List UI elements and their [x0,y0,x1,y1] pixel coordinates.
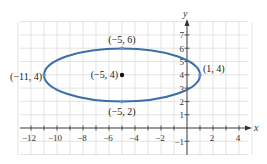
x-tick-label: −8 [77,133,87,143]
ellipse-chart: x y −12 −10 −8 −6 −4 −2 2 4 −1 1 2 3 4 5… [0,0,267,164]
y-tick-label: 7 [180,30,185,40]
y-axis-arrow-icon [185,19,190,26]
vertex-point-right [198,73,202,77]
y-axis-label: y [182,8,188,19]
center-point [120,73,124,77]
x-tick-label: 4 [236,133,241,143]
label-top: (−5, 6) [108,34,135,46]
y-tick-label: −1 [174,137,184,147]
x-tick-label: −12 [22,133,36,143]
label-left: (−11, 4) [10,71,42,83]
y-tick-label: 4 [180,70,185,80]
x-axis-arrow-icon [245,126,252,131]
label-center: (−5, 4) [91,69,118,81]
label-bottom: (−5, 2) [108,106,135,118]
x-tick-label: −10 [48,133,63,143]
x-tick-label: 2 [210,133,215,143]
vertex-point-bottom [120,100,124,104]
y-tick-label: 2 [180,97,185,107]
x-tick-label: −6 [103,133,113,143]
x-tick-label: −4 [129,133,139,143]
y-tick-label: 6 [180,44,185,54]
y-tick-labels: −1 1 2 3 4 5 6 7 [174,30,184,147]
vertex-point-left [42,73,46,77]
y-tick-label: 1 [180,110,185,120]
vertex-point-top [120,47,124,51]
label-right: (1, 4) [203,63,225,75]
x-axis-label: x [253,122,259,133]
x-tick-label: −2 [155,133,165,143]
